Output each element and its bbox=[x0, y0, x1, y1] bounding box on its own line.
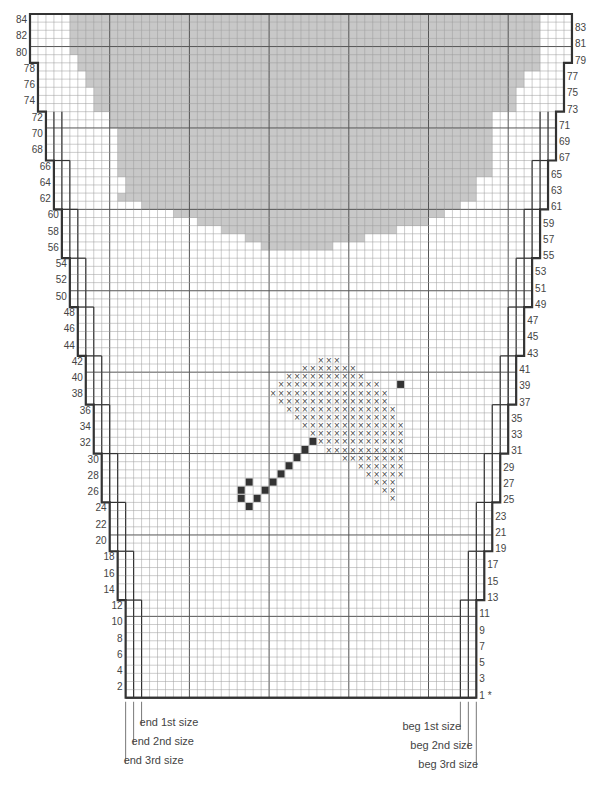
size-label-end-3: end 3rd size bbox=[124, 754, 184, 766]
row-label-left: 84 bbox=[3, 15, 27, 25]
row-label-right: 7 bbox=[479, 642, 503, 652]
solid-stitch-cell bbox=[309, 438, 316, 445]
cross-stitch-mark: × bbox=[349, 454, 356, 463]
row-label-right: 11 bbox=[479, 609, 503, 619]
shaded-cell-row bbox=[70, 47, 540, 55]
row-label-right: 29 bbox=[503, 463, 527, 473]
cross-stitch-mark: × bbox=[333, 446, 340, 455]
cross-stitch-mark: × bbox=[278, 397, 285, 406]
row-label-left: 66 bbox=[27, 162, 51, 172]
row-label-right: 31 bbox=[511, 446, 535, 456]
solid-stitch-cell bbox=[238, 487, 245, 494]
cross-stitch-mark: × bbox=[270, 389, 277, 398]
solid-stitch-cell bbox=[301, 446, 308, 453]
row-label-left: 64 bbox=[27, 178, 51, 188]
row-label-left: 40 bbox=[59, 373, 83, 383]
row-label-left: 26 bbox=[75, 487, 99, 497]
row-label-right: 83 bbox=[575, 23, 596, 33]
row-label-right: 67 bbox=[559, 153, 583, 163]
cross-stitch-mark: × bbox=[318, 437, 325, 446]
shaded-cell-row bbox=[118, 161, 493, 169]
shaded-cell-row bbox=[86, 71, 524, 79]
shaded-cell-row bbox=[70, 22, 540, 30]
knitting-chart: ××××××××××××××××××××××××××××××××××××××××… bbox=[0, 0, 596, 786]
shaded-cell-row bbox=[94, 95, 516, 103]
size-label-beg-1: beg 1st size bbox=[402, 720, 461, 732]
row-label-left: 42 bbox=[59, 357, 83, 367]
row-label-left: 58 bbox=[35, 227, 59, 237]
cross-stitch-mark: × bbox=[302, 421, 309, 430]
row-label-left: 46 bbox=[51, 324, 75, 334]
row-label-right: 81 bbox=[575, 39, 596, 49]
cross-stitch-mark: × bbox=[365, 470, 372, 479]
cross-stitch-mark: × bbox=[326, 446, 333, 455]
row-label-left: 8 bbox=[99, 634, 123, 644]
row-label-left: 36 bbox=[67, 406, 91, 416]
solid-stitch-cell bbox=[270, 478, 277, 485]
cross-stitch-mark: × bbox=[310, 429, 317, 438]
row-label-left: 60 bbox=[35, 210, 59, 220]
row-label-right: 61 bbox=[551, 202, 575, 212]
row-label-right: 27 bbox=[503, 479, 527, 489]
row-label-left: 4 bbox=[99, 666, 123, 676]
row-label-right: 9 bbox=[479, 626, 503, 636]
shaded-cell-row bbox=[70, 38, 540, 46]
row-label-right: 55 bbox=[543, 251, 567, 261]
solid-stitch-cell bbox=[246, 478, 253, 485]
row-label-right: 19 bbox=[495, 544, 519, 554]
row-label-right: 37 bbox=[519, 398, 543, 408]
row-label-right: 59 bbox=[543, 219, 567, 229]
shaded-cell-row bbox=[261, 242, 333, 250]
row-label-right: 73 bbox=[567, 105, 591, 115]
row-label-right: 3 bbox=[479, 674, 503, 684]
row-label-left: 62 bbox=[27, 194, 51, 204]
row-label-left: 12 bbox=[99, 601, 123, 611]
row-label-left: 74 bbox=[11, 96, 35, 106]
solid-stitch-cell bbox=[397, 381, 404, 388]
shaded-cell-row bbox=[118, 169, 493, 177]
shaded-cell-row bbox=[118, 136, 493, 144]
shaded-cell-row bbox=[197, 218, 428, 226]
row-label-left: 72 bbox=[19, 113, 43, 123]
row-label-left: 34 bbox=[67, 422, 91, 432]
row-label-right: 33 bbox=[511, 430, 535, 440]
row-label-left: 32 bbox=[67, 438, 91, 448]
row-label-right: 21 bbox=[495, 528, 519, 538]
row-label-right: 25 bbox=[503, 495, 527, 505]
row-label-right: 79 bbox=[575, 56, 596, 66]
solid-stitch-cell bbox=[238, 495, 245, 502]
row-label-left: 18 bbox=[91, 552, 115, 562]
row-label-left: 28 bbox=[75, 471, 99, 481]
row-label-left: 10 bbox=[99, 617, 123, 627]
shaded-cell-row bbox=[94, 104, 516, 112]
size-label-beg-2: beg 2nd size bbox=[410, 739, 472, 751]
shaded-cell-row bbox=[118, 128, 493, 136]
cross-stitch-mark: × bbox=[381, 486, 388, 495]
row-label-right: 63 bbox=[551, 186, 575, 196]
shaded-cell-row bbox=[118, 152, 493, 160]
solid-stitch-cell bbox=[294, 454, 301, 461]
row-label-right: 65 bbox=[551, 170, 575, 180]
row-label-left: 24 bbox=[83, 503, 107, 513]
row-label-left: 68 bbox=[19, 145, 43, 155]
row-label-left: 22 bbox=[83, 520, 107, 530]
row-label-left: 6 bbox=[99, 650, 123, 660]
row-label-right: 17 bbox=[487, 560, 511, 570]
row-label-right: 41 bbox=[519, 365, 543, 375]
solid-stitch-cell bbox=[254, 495, 261, 502]
row-label-left: 16 bbox=[91, 569, 115, 579]
row-label-right: 49 bbox=[535, 300, 559, 310]
row-label-left: 78 bbox=[11, 64, 35, 74]
row-label-left: 82 bbox=[3, 31, 27, 41]
size-label-beg-3: beg 3rd size bbox=[418, 758, 478, 770]
row-label-right: 77 bbox=[567, 72, 591, 82]
row-label-left: 20 bbox=[83, 536, 107, 546]
row-label-right: 53 bbox=[535, 267, 559, 277]
row-label-right: 75 bbox=[567, 88, 591, 98]
size-label-end-1: end 1st size bbox=[140, 716, 199, 728]
row-label-left: 44 bbox=[51, 341, 75, 351]
cross-stitch-mark: × bbox=[397, 470, 404, 479]
solid-stitch-cell bbox=[286, 462, 293, 469]
row-label-right: 45 bbox=[527, 332, 551, 342]
row-label-right: 39 bbox=[519, 381, 543, 391]
